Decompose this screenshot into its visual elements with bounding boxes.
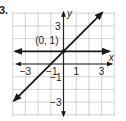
axes [17,12,112,116]
x-tick-label: 1 [73,66,79,77]
x-tick-label: −3 [20,66,32,77]
point-annotation: (0, 1) [35,35,58,46]
y-tick-label: 3 [55,21,61,32]
y-tick-label: −3 [50,97,62,108]
axis-labels: −3−1133−1−3xy(0, 1) [20,8,115,108]
y-intercept-point [62,49,66,53]
x-axis-label: x [108,52,115,63]
y-tick-label: −1 [50,72,62,83]
x-tick-label: 3 [99,66,105,77]
coordinate-plane: −3−1133−1−3xy(0, 1) [0,0,126,121]
y-axis-label: y [66,8,73,19]
